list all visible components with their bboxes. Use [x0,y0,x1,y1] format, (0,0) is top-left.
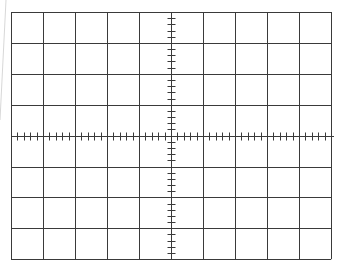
page-edge-shadow [0,0,6,120]
oscilloscope-graticule [0,0,337,271]
